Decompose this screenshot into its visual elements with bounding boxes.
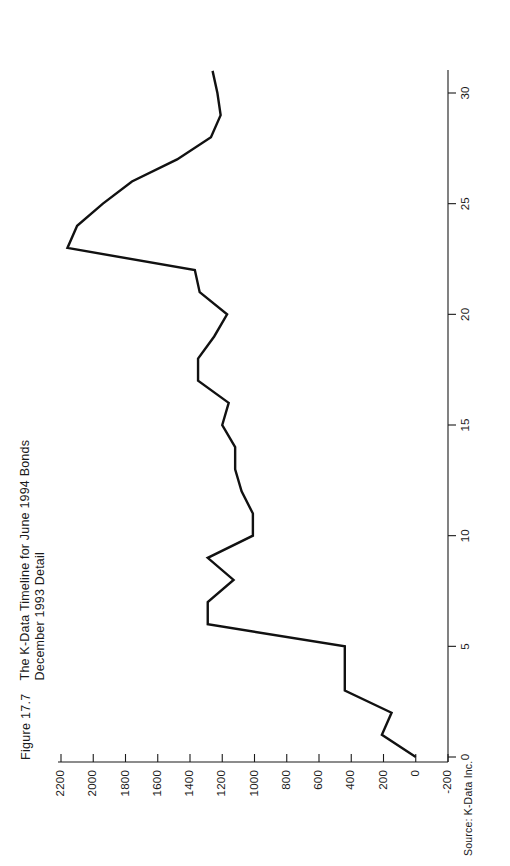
line-chart-svg: 051015202530 -20002004006008001000120014… [0, 0, 510, 866]
value-tick-label: 1800 [119, 770, 131, 796]
value-tick-label: 1400 [183, 770, 195, 796]
category-tick-label: 0 [459, 754, 471, 761]
value-tick-label: 2000 [86, 770, 98, 796]
value-tick-label: 1000 [248, 770, 260, 796]
category-tick-label: 30 [459, 86, 471, 99]
chart-axes [58, 70, 448, 762]
value-tick-label: 1600 [151, 770, 163, 796]
value-tick-label: 1200 [215, 770, 227, 796]
value-tick-label: 800 [280, 770, 292, 790]
value-axis-ticks: -200020040060080010001200140016001800200… [54, 754, 453, 796]
value-tick-label: 200 [377, 770, 389, 790]
value-tick-label: 2200 [54, 770, 66, 796]
data-series-line [67, 71, 415, 757]
category-tick-label: 5 [459, 643, 471, 650]
value-tick-label: 400 [344, 770, 356, 790]
value-tick-label: 600 [312, 770, 324, 790]
category-tick-label: 20 [459, 308, 471, 321]
category-axis-ticks: 051015202530 [448, 86, 471, 760]
category-tick-label: 25 [459, 197, 471, 210]
category-tick-label: 15 [459, 418, 471, 431]
category-tick-label: 10 [459, 529, 471, 542]
chart-plot-area: 051015202530 -20002004006008001000120014… [0, 0, 510, 866]
value-tick-label: -200 [441, 770, 453, 794]
figure-page: Figure 17.7 The K-Data Timeline for June… [0, 0, 510, 866]
value-tick-label: 0 [409, 770, 421, 777]
